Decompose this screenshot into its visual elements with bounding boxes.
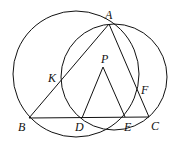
label-D: D (74, 120, 84, 134)
segment-PE (103, 67, 125, 117)
label-A: A (104, 8, 113, 22)
label-F: F (140, 83, 149, 97)
segment-AC (109, 24, 149, 117)
segment-BC (29, 117, 149, 118)
label-B: B (18, 120, 26, 134)
segment-PD (82, 67, 103, 118)
label-P: P (100, 52, 109, 66)
label-E: E (123, 120, 132, 134)
geometry-diagram: A B C D E F K P (0, 0, 175, 152)
label-K: K (47, 71, 57, 85)
label-C: C (151, 119, 160, 133)
right-circle (61, 24, 167, 130)
segment-AB (29, 24, 109, 118)
